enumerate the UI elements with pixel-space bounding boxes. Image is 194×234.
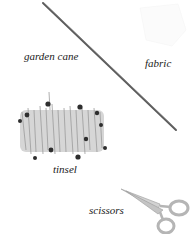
fabric-icon [140,4,186,46]
craft-materials-illustration: garden cane fabric tinsel scissors [0,0,194,234]
fabric-label: fabric [145,58,171,69]
tinsel-icon [18,92,107,160]
tinsel-label: tinsel [53,164,77,175]
garden-cane-label: garden cane [24,51,78,62]
scissors-icon [121,189,188,233]
illustration-layer [0,0,194,234]
scissors-label: scissors [89,205,124,216]
